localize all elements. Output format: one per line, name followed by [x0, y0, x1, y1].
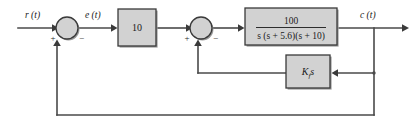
inner-summer	[190, 17, 212, 39]
plant-denominator: s (s + 5.6)(s + 10)	[257, 31, 325, 42]
inner-summer-input-sign: +	[185, 33, 190, 43]
plant-numerator: 100	[284, 16, 299, 26]
block-diagram-svg: + − + − 10 100 s (s + 5.6)(s + 10) Kfs r…	[0, 0, 418, 128]
arrowhead-inner-summer-feedback	[194, 40, 202, 47]
arrowhead-output	[402, 24, 409, 32]
arrowhead-plant-input	[238, 24, 245, 32]
outer-summer-feedback-sign: −	[79, 33, 84, 43]
outer-summer-input-sign: +	[51, 33, 56, 43]
input-signal-label: r (t)	[25, 10, 40, 21]
block-diagram-canvas: + − + − 10 100 s (s + 5.6)(s + 10) Kfs r…	[0, 0, 418, 128]
inner-summer-feedback-sign: −	[213, 33, 218, 43]
arrowhead-gain-input	[111, 24, 118, 32]
rate-feedback-label-tail: s	[310, 66, 314, 77]
output-signal-label: c (t)	[360, 10, 376, 21]
arrowhead-kf-input	[332, 69, 339, 77]
outer-summer	[56, 17, 78, 39]
junction-dot-feedback-tap	[372, 71, 375, 74]
gain-block-label: 10	[132, 22, 142, 33]
error-signal-label: e (t)	[85, 10, 101, 21]
